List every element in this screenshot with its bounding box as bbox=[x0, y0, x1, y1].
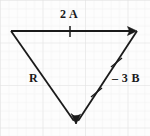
vector-r-shaft bbox=[11, 31, 74, 121]
vector-diagram-figure: 2 A R – 3 B bbox=[0, 0, 150, 136]
vector-label-minus-3b: – 3 B bbox=[112, 72, 140, 84]
vector-minus-3b-tick-1 bbox=[111, 58, 122, 67]
vector-r bbox=[11, 31, 79, 124]
vector-label-r: R bbox=[29, 72, 38, 84]
vector-label-2a: 2 A bbox=[60, 8, 78, 20]
vector-2a bbox=[11, 26, 137, 37]
vector-minus-3b-tick-2 bbox=[91, 88, 102, 97]
